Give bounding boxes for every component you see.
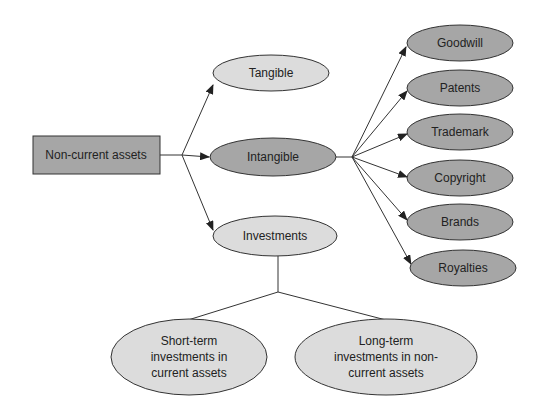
node-tangible: Tangible	[213, 55, 329, 91]
node-copyright: Copyright	[407, 160, 513, 196]
root-node: Non-current assets	[33, 136, 160, 174]
short-term-line-1: Short-term	[161, 334, 218, 348]
brands-label: Brands	[441, 215, 479, 229]
arrow-to-royalties	[352, 157, 411, 264]
royalties-label: Royalties	[438, 261, 487, 275]
line-to-short-term	[188, 292, 278, 320]
line-to-long-term	[278, 292, 386, 320]
node-investments: Investments	[213, 216, 337, 256]
node-patents: Patents	[407, 70, 513, 106]
non-current-assets-diagram: Non-current assets Tangible Intangible I…	[0, 0, 546, 417]
intangible-label: Intangible	[247, 150, 299, 164]
node-royalties: Royalties	[410, 250, 516, 286]
node-short-term-investments: Short-term investments in current assets	[111, 319, 267, 395]
trademark-label: Trademark	[431, 125, 490, 139]
tangible-label: Tangible	[249, 66, 294, 80]
node-trademark: Trademark	[407, 114, 513, 150]
goodwill-label: Goodwill	[437, 36, 483, 50]
arrow-to-intangible	[182, 155, 209, 157]
arrow-to-trademark	[352, 134, 407, 157]
copyright-label: Copyright	[434, 171, 486, 185]
root-label: Non-current assets	[45, 148, 146, 162]
node-brands: Brands	[407, 204, 513, 240]
arrow-to-investments	[182, 155, 213, 230]
node-goodwill: Goodwill	[407, 25, 513, 61]
patents-label: Patents	[440, 81, 481, 95]
long-term-line-1: Long-term	[359, 334, 414, 348]
long-term-line-2: investments in non-	[334, 350, 438, 364]
node-intangible: Intangible	[210, 138, 336, 176]
node-long-term-investments: Long-term investments in non- current as…	[295, 319, 477, 395]
investments-label: Investments	[243, 229, 308, 243]
arrow-to-brands	[352, 157, 407, 220]
short-term-line-2: investments in	[151, 350, 228, 364]
short-term-line-3: current assets	[151, 366, 226, 380]
long-term-line-3: current assets	[348, 366, 423, 380]
arrow-to-tangible	[182, 85, 213, 155]
